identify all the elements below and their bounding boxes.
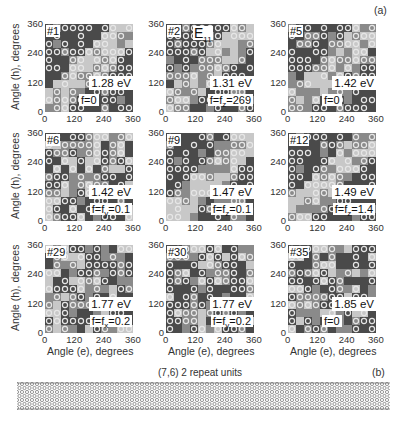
y-tick-label: 120 <box>270 78 286 88</box>
oscillator-strength-label: f=fy=0.1 <box>90 203 132 215</box>
x-tick-label: 360 <box>368 335 384 345</box>
x-axis-label: Angle (e), degrees <box>168 345 254 357</box>
y-tick-label: 120 <box>148 299 164 309</box>
x-tick-label: 120 <box>309 223 325 233</box>
x-tick-label: 120 <box>187 335 203 345</box>
x-tick-label: 0 <box>42 114 47 124</box>
y-tick-label: 240 <box>148 269 164 279</box>
heatmap-panel: #291.77 eVf=fx=0.2 <box>45 245 133 333</box>
y-tick-label: 360 <box>270 240 286 250</box>
y-tick-label: 240 <box>270 157 286 167</box>
tube-title: (7,6) 2 repeat units <box>0 367 400 378</box>
y-tick-label: 120 <box>27 299 43 309</box>
energy-label: 1.77 eV <box>210 297 254 311</box>
y-tick-label: 120 <box>148 78 164 88</box>
heatmap-panel: #91.47 eVf=fz=0.1 <box>166 133 254 221</box>
panel-id: #12 <box>289 134 309 146</box>
x-tick-label: 120 <box>66 114 82 124</box>
x-tick-label: 120 <box>187 223 203 233</box>
e11-annotation: E11 <box>193 26 213 40</box>
x-tick-label: 360 <box>125 114 141 124</box>
y-tick-label: 120 <box>148 187 164 197</box>
y-tick-label: 360 <box>148 19 164 29</box>
panel-id: #6 <box>46 134 60 146</box>
panel-label-b: (b) <box>372 366 385 378</box>
y-tick-label: 360 <box>27 128 43 138</box>
y-tick-label: 360 <box>148 240 164 250</box>
oscillator-strength-label: f=0 <box>79 94 99 106</box>
oscillator-strength-label: f=fz=1.4 <box>333 203 375 215</box>
oscillator-strength-label: f=fx=0.2 <box>90 315 132 327</box>
y-tick-label: 240 <box>270 269 286 279</box>
energy-label: 1.85 eV <box>332 297 376 311</box>
x-axis-label: Angle (e), degrees <box>47 345 133 357</box>
y-tick-label: 120 <box>27 78 43 88</box>
x-tick-label: 0 <box>163 114 168 124</box>
panel-id: #1 <box>46 25 60 37</box>
x-tick-label: 0 <box>42 223 47 233</box>
oscillator-strength-label: f=fy=0.2 <box>211 315 253 327</box>
x-tick-label: 0 <box>163 335 168 345</box>
panel-id: #35 <box>289 246 309 258</box>
x-tick-label: 360 <box>246 114 262 124</box>
energy-label: 1.28 eV <box>89 76 133 90</box>
x-tick-label: 0 <box>285 223 290 233</box>
y-tick-label: 240 <box>270 48 286 58</box>
x-tick-label: 240 <box>217 114 233 124</box>
x-tick-label: 240 <box>96 114 112 124</box>
heatmap-panel: #301.77 eVf=fy=0.2 <box>166 245 254 333</box>
nanotube-image <box>17 382 390 410</box>
x-tick-label: 120 <box>187 114 203 124</box>
y-tick-label: 120 <box>270 187 286 197</box>
y-axis-label: Angle (h), degrees <box>9 245 21 331</box>
panel-label-a: (a) <box>374 4 387 16</box>
x-tick-label: 240 <box>217 335 233 345</box>
y-tick-label: 240 <box>148 48 164 58</box>
x-tick-label: 240 <box>217 223 233 233</box>
oscillator-strength-label: f=0 <box>322 315 342 327</box>
x-tick-label: 360 <box>368 223 384 233</box>
y-tick-label: 240 <box>27 269 43 279</box>
panel-id: #29 <box>46 246 66 258</box>
oscillator-strength-label: f=0 <box>322 94 342 106</box>
x-tick-label: 360 <box>125 223 141 233</box>
panel-id: #9 <box>167 134 181 146</box>
x-tick-label: 120 <box>309 114 325 124</box>
x-tick-label: 120 <box>309 335 325 345</box>
y-tick-label: 360 <box>27 240 43 250</box>
y-tick-label: 360 <box>270 128 286 138</box>
y-axis-label: Angle (h), degrees <box>9 133 21 219</box>
heatmap-panel: #351.85 eVf=0 <box>288 245 376 333</box>
oscillator-strength-label: f=fz=269 <box>208 94 253 106</box>
x-tick-label: 240 <box>96 223 112 233</box>
heatmap-panel: #21.31 eVf=fz=269E11 <box>166 24 254 112</box>
x-tick-label: 120 <box>66 335 82 345</box>
panel-id: #5 <box>289 25 303 37</box>
y-tick-label: 360 <box>27 19 43 29</box>
x-tick-label: 360 <box>125 335 141 345</box>
energy-label: 1.49 eV <box>332 185 376 199</box>
heatmap-panel: #121.49 eVf=fz=1.4 <box>288 133 376 221</box>
oscillator-strength-label: f=fz=0.1 <box>211 203 253 215</box>
x-tick-label: 360 <box>246 223 262 233</box>
energy-label: 1.77 eV <box>89 297 133 311</box>
x-axis-label: Angle (e), degrees <box>290 345 376 357</box>
y-tick-label: 360 <box>148 128 164 138</box>
energy-label: 1.31 eV <box>210 76 254 90</box>
energy-label: 1.47 eV <box>210 185 254 199</box>
heatmap-panel: #61.42 eVf=fy=0.1 <box>45 133 133 221</box>
x-tick-label: 240 <box>96 335 112 345</box>
x-tick-label: 0 <box>285 335 290 345</box>
x-tick-label: 360 <box>246 335 262 345</box>
x-tick-label: 0 <box>163 223 168 233</box>
heatmap-panel: #51.42 eVf=0 <box>288 24 376 112</box>
panel-id: #2 <box>167 25 181 37</box>
y-tick-label: 240 <box>27 48 43 58</box>
x-tick-label: 240 <box>339 335 355 345</box>
x-tick-label: 0 <box>285 114 290 124</box>
y-tick-label: 360 <box>270 19 286 29</box>
x-tick-label: 240 <box>339 114 355 124</box>
energy-label: 1.42 eV <box>89 185 133 199</box>
x-tick-label: 120 <box>66 223 82 233</box>
energy-label: 1.42 eV <box>332 76 376 90</box>
